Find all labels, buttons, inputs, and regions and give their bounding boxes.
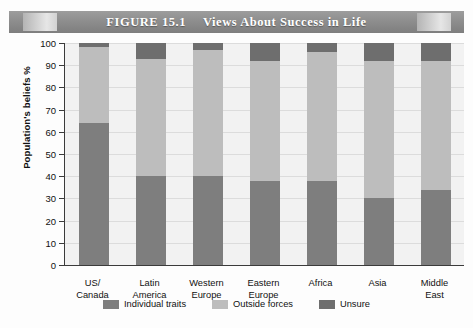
y-axis-tick-label: 70 [45, 104, 56, 115]
bar-segment-outside-forces [421, 61, 451, 190]
bar-segment-individual-traits [421, 190, 451, 265]
bar-segment-individual-traits [79, 123, 109, 265]
y-axis-tick-label: 60 [45, 126, 56, 137]
chart-legend: Individual traitsOutside forcesUnsure [0, 299, 473, 309]
legend-label: Outside forces [233, 299, 293, 309]
bar-segment-outside-forces [79, 47, 109, 122]
bar-stack[interactable] [193, 43, 223, 265]
legend-swatch [319, 300, 335, 309]
bar-segment-unsure [79, 43, 109, 47]
y-axis-tick [59, 65, 65, 66]
figure-number: FIGURE 15.1 [106, 15, 186, 29]
y-axis-tick [59, 221, 65, 222]
bar-segment-unsure [193, 43, 223, 50]
x-axis-category-label: MiddleEast [398, 278, 472, 301]
bar-segment-outside-forces [250, 61, 280, 181]
y-axis-tick [59, 265, 65, 266]
bar-stack[interactable] [421, 43, 451, 265]
legend-item[interactable]: Individual traits [103, 299, 186, 309]
y-axis-tick-label: 10 [45, 237, 56, 248]
legend-swatch [212, 300, 228, 309]
plot-area: 0102030405060708090100 [64, 43, 464, 266]
figure-title-text: Views About Success in Life [203, 15, 367, 29]
bar-segment-individual-traits [136, 176, 166, 265]
y-axis-tick [59, 132, 65, 133]
bar-stack[interactable] [250, 43, 280, 265]
y-axis-tick-label: 50 [45, 149, 56, 160]
legend-item[interactable]: Unsure [319, 299, 370, 309]
y-axis-tick-label: 100 [40, 38, 56, 49]
bar-segment-outside-forces [364, 61, 394, 199]
bar-stack[interactable] [79, 43, 109, 265]
figure-container: FIGURE 15.1Views About Success in Life P… [0, 0, 473, 328]
y-axis-tick [59, 110, 65, 111]
bar-segment-individual-traits [364, 198, 394, 265]
y-axis-tick-label: 90 [45, 60, 56, 71]
y-axis-tick [59, 87, 65, 88]
y-axis-tick-label: 40 [45, 171, 56, 182]
legend-swatch [103, 300, 119, 309]
bar-stack[interactable] [136, 43, 166, 265]
bar-segment-individual-traits [250, 181, 280, 265]
y-axis-tick-label: 0 [51, 260, 56, 271]
bar-segment-unsure [421, 43, 451, 61]
y-axis-tick [59, 154, 65, 155]
bar-segment-unsure [136, 43, 166, 59]
bar-segment-unsure [364, 43, 394, 61]
banner-cap-right-decoration [417, 13, 451, 31]
bar-segment-unsure [250, 43, 280, 61]
figure-title-banner: FIGURE 15.1Views About Success in Life [9, 11, 464, 33]
bar-segment-outside-forces [136, 59, 166, 177]
y-axis-tick-label: 30 [45, 193, 56, 204]
bar-segment-individual-traits [193, 176, 223, 265]
legend-item[interactable]: Outside forces [212, 299, 293, 309]
bar-segment-unsure [307, 43, 337, 52]
y-axis-tick-label: 20 [45, 215, 56, 226]
banner-cap-left-decoration [23, 13, 57, 31]
bar-segment-outside-forces [193, 50, 223, 177]
y-axis-tick [59, 243, 65, 244]
bar-segment-outside-forces [307, 52, 337, 181]
y-axis-tick [59, 198, 65, 199]
legend-label: Individual traits [124, 299, 186, 309]
y-axis-tick [59, 176, 65, 177]
figure-title: FIGURE 15.1Views About Success in Life [106, 15, 366, 30]
bar-stack[interactable] [364, 43, 394, 265]
plot-wrapper: Population's beliefs % 01020304050607080… [9, 38, 464, 273]
y-axis-tick [59, 43, 65, 44]
y-axis-tick-label: 80 [45, 82, 56, 93]
bar-segment-individual-traits [307, 181, 337, 265]
y-axis-label: Population's beliefs % [21, 58, 32, 178]
bar-stack[interactable] [307, 43, 337, 265]
legend-label: Unsure [340, 299, 370, 309]
category-label-line: Middle [398, 278, 472, 290]
